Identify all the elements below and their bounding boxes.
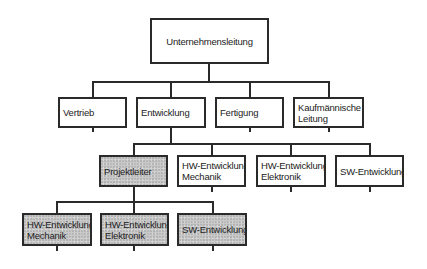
connector [133, 201, 135, 213]
connector [212, 201, 214, 213]
node-label: Entwicklung [141, 107, 190, 118]
node-label: Projektleiter [104, 166, 152, 177]
node-hw-entwicklung-mechanik: HW-Entwicklung Mechanik [177, 155, 246, 187]
node-label: SW-Entwicklung [340, 166, 404, 177]
connector [56, 201, 213, 203]
org-chart: Unternehmensleitung Vertrieb Entwicklung… [0, 0, 427, 269]
connector [208, 63, 210, 81]
node-kaufmaennische-leitung: Kaufmännische Leitung [293, 97, 364, 128]
connector [170, 81, 172, 97]
node-projektleiter: Projektleiter [99, 155, 168, 187]
node-vertrieb: Vertrieb [58, 97, 127, 128]
node-project-sw: SW-Entwicklung [177, 213, 247, 246]
node-hw-entwicklung-elektronik: HW-Entwicklung Elektronik [256, 155, 326, 187]
connector [133, 246, 135, 251]
node-label: SW-Entwicklung [182, 224, 247, 235]
node-label: Fertigung [220, 107, 258, 118]
node-label-line2: Mechanik [27, 230, 66, 241]
node-fertigung: Fertigung [215, 97, 284, 128]
connector [133, 143, 370, 145]
node-label: Unternehmensleitung [166, 36, 253, 47]
node-label-line2: Elektronik [261, 171, 301, 182]
node-project-hw-mechanik: HW-Entwicklung Mechanik [22, 213, 92, 246]
node-label-line1: HW-Entwicklung [27, 219, 92, 230]
node-entwicklung: Entwicklung [136, 97, 206, 128]
connector [212, 246, 214, 251]
connector [56, 246, 58, 251]
connector [211, 143, 213, 155]
node-project-hw-elektronik: HW-Entwicklung Elektronik [100, 213, 169, 246]
node-label-line2: Mechanik [182, 171, 221, 182]
node-label-line1: HW-Entwicklung [105, 219, 169, 230]
connector [92, 81, 94, 97]
connector [133, 187, 135, 201]
connector [369, 143, 371, 155]
connector [328, 81, 330, 97]
node-label-line2: Elektronik [105, 230, 145, 241]
node-sw-entwicklung: SW-Entwicklung [335, 155, 404, 187]
node-label-line2: Leitung [298, 113, 328, 124]
node-label: Vertrieb [63, 107, 94, 118]
node-label-line1: HW-Entwicklung [182, 160, 246, 171]
connector [133, 143, 135, 155]
connector [290, 187, 292, 192]
connector [92, 81, 329, 83]
connector [249, 81, 251, 97]
connector [369, 187, 371, 192]
node-label-line1: HW-Entwicklung [261, 160, 326, 171]
connector [170, 127, 172, 143]
connector [290, 143, 292, 155]
connector [211, 187, 213, 192]
connector [56, 201, 58, 213]
node-unternehmensleitung: Unternehmensleitung [150, 18, 269, 64]
node-label-line1: Kaufmännische [298, 102, 361, 113]
